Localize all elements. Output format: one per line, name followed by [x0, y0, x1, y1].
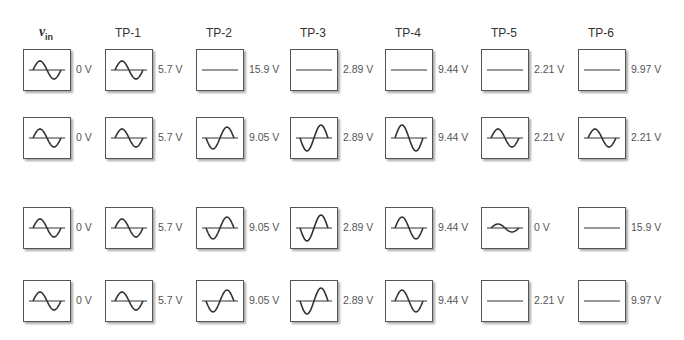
scope-display-r1-tp1	[105, 49, 153, 91]
sine-wave-icon	[197, 118, 243, 158]
voltage-reading: 5.7 V	[158, 63, 183, 75]
voltage-reading: 5.7 V	[158, 294, 183, 306]
sine-wave-icon	[482, 118, 528, 158]
dc-level-icon	[482, 281, 528, 321]
voltage-reading: 5.7 V	[158, 221, 183, 233]
scope-display-r4-tp2	[196, 280, 244, 322]
sine-wave-icon	[579, 118, 625, 158]
scope-display-r4-vin	[23, 280, 71, 322]
scope-display-r4-tp1	[105, 280, 153, 322]
sine-wave-icon	[24, 50, 70, 90]
sine-wave-icon	[24, 208, 70, 248]
voltage-reading: 2.21 V	[534, 294, 564, 306]
voltage-reading: 9.05 V	[249, 221, 279, 233]
header-tp-3: TP-3	[283, 26, 343, 40]
sine-wave-icon	[197, 281, 243, 321]
voltage-reading: 15.9 V	[631, 221, 661, 233]
scope-display-r1-tp6	[578, 49, 626, 91]
scope-display-r3-tp3	[290, 207, 338, 249]
sine-wave-icon	[291, 281, 337, 321]
scope-display-r2-tp6	[578, 117, 626, 159]
sine-wave-icon	[291, 118, 337, 158]
voltage-reading: 9.44 V	[438, 294, 468, 306]
header-tp-2: TP-2	[189, 26, 249, 40]
voltage-reading: 15.9 V	[249, 63, 279, 75]
sine-wave-icon	[386, 118, 432, 158]
sine-wave-icon	[106, 281, 152, 321]
header-tp-5: TP-5	[474, 26, 534, 40]
sine-wave-icon	[106, 208, 152, 248]
sine-wave-icon	[291, 208, 337, 248]
dc-level-icon	[579, 281, 625, 321]
voltage-reading: 0 V	[76, 294, 92, 306]
sine-wave-icon	[386, 208, 432, 248]
sine-wave-icon	[197, 208, 243, 248]
scope-display-r4-tp3	[290, 280, 338, 322]
voltage-reading: 5.7 V	[158, 131, 183, 143]
voltage-reading: 9.05 V	[249, 131, 279, 143]
sine-wave-icon	[482, 208, 528, 248]
voltage-reading: 9.05 V	[249, 294, 279, 306]
voltage-reading: 0 V	[76, 63, 92, 75]
voltage-reading: 0 V	[76, 221, 92, 233]
scope-display-r3-tp4	[385, 207, 433, 249]
voltage-reading: 2.21 V	[534, 63, 564, 75]
voltage-reading: 0 V	[534, 221, 550, 233]
voltage-reading: 2.89 V	[343, 131, 373, 143]
sine-wave-icon	[24, 118, 70, 158]
scope-display-r2-tp5	[481, 117, 529, 159]
scope-display-r4-tp6	[578, 280, 626, 322]
scope-display-r1-tp3	[290, 49, 338, 91]
scope-display-r3-tp5	[481, 207, 529, 249]
sine-wave-icon	[24, 281, 70, 321]
dc-level-icon	[579, 208, 625, 248]
voltage-reading: 0 V	[76, 131, 92, 143]
scope-display-r4-tp4	[385, 280, 433, 322]
voltage-reading: 2.89 V	[343, 294, 373, 306]
scope-display-r2-tp3	[290, 117, 338, 159]
dc-level-icon	[386, 50, 432, 90]
scope-display-r1-tp2	[196, 49, 244, 91]
voltage-reading: 2.21 V	[534, 131, 564, 143]
header-tp-4: TP-4	[378, 26, 438, 40]
scope-display-r3-tp2	[196, 207, 244, 249]
scope-display-r2-tp4	[385, 117, 433, 159]
scope-display-r3-tp1	[105, 207, 153, 249]
voltage-reading: 2.89 V	[343, 221, 373, 233]
dc-level-icon	[291, 50, 337, 90]
header-tp-6: TP-6	[571, 26, 631, 40]
dc-level-icon	[482, 50, 528, 90]
sine-wave-icon	[386, 281, 432, 321]
scope-display-r2-tp2	[196, 117, 244, 159]
scope-display-r3-tp6	[578, 207, 626, 249]
scope-display-r4-tp5	[481, 280, 529, 322]
voltage-reading: 9.44 V	[438, 63, 468, 75]
sine-wave-icon	[106, 50, 152, 90]
voltage-reading: 9.44 V	[438, 221, 468, 233]
scope-display-r1-tp4	[385, 49, 433, 91]
scope-display-r2-tp1	[105, 117, 153, 159]
dc-level-icon	[579, 50, 625, 90]
scope-display-r1-tp5	[481, 49, 529, 91]
sine-wave-icon	[106, 118, 152, 158]
voltage-reading: 2.89 V	[343, 63, 373, 75]
voltage-reading: 2.21 V	[631, 131, 661, 143]
voltage-reading: 9.97 V	[631, 294, 661, 306]
header-tp-1: TP-1	[98, 26, 158, 40]
voltage-reading: 9.97 V	[631, 63, 661, 75]
scope-display-r2-vin	[23, 117, 71, 159]
header-vin: vin	[16, 24, 76, 42]
scope-display-r3-vin	[23, 207, 71, 249]
scope-display-r1-vin	[23, 49, 71, 91]
dc-level-icon	[197, 50, 243, 90]
voltage-reading: 9.44 V	[438, 131, 468, 143]
